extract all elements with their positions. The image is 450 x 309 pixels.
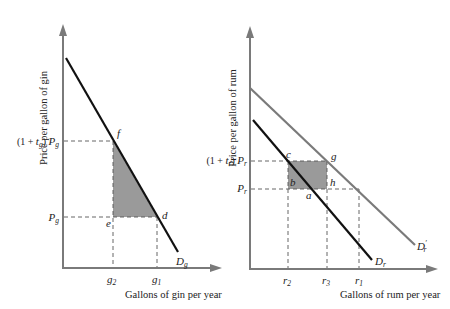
tick-r2: r2 bbox=[283, 274, 291, 288]
point-d-label: d bbox=[162, 209, 168, 221]
price-high-label: (1 + tr) Pr bbox=[207, 154, 248, 168]
tick-g2: g2 bbox=[107, 273, 117, 287]
y-axis-arrow-icon bbox=[246, 26, 254, 38]
x-axis-title: Gallons of rum per year bbox=[340, 289, 441, 300]
rum-chart: Price per gallon of rum (1 + tr) Pr Pr c… bbox=[207, 26, 441, 300]
x-axis-title: Gallons of gin per year bbox=[125, 289, 222, 300]
point-c-label: c bbox=[286, 148, 291, 160]
point-g-label: g bbox=[331, 150, 337, 162]
y-axis-title: Price per gallon of gin bbox=[38, 70, 49, 165]
demand-curve-dg bbox=[66, 58, 178, 252]
point-e-label: e bbox=[106, 217, 111, 229]
tick-r3: r3 bbox=[322, 274, 330, 288]
price-low-label: Pg bbox=[48, 211, 60, 225]
point-h-label: h bbox=[330, 176, 336, 188]
price-low-label: Pr bbox=[236, 182, 247, 196]
y-axis-arrow-icon bbox=[59, 24, 67, 36]
figure: Price per gallon of gin (1 + tg) Pg Pg f… bbox=[0, 0, 450, 309]
curve-dr-prime-label: D′r bbox=[416, 239, 427, 254]
price-high-label: (1 + tg) Pg bbox=[17, 135, 59, 149]
point-a-label: a bbox=[306, 189, 312, 201]
point-b-label: b bbox=[290, 176, 296, 188]
point-f-label: f bbox=[117, 127, 122, 139]
y-axis-title: Price per gallon of rum bbox=[227, 69, 238, 166]
curve-dg-label: Dg bbox=[175, 255, 188, 269]
demand-curve-dr bbox=[253, 120, 372, 260]
demand-curve-dr-prime bbox=[250, 88, 415, 245]
curve-dr-label: Dr bbox=[374, 255, 386, 269]
x-axis-arrow-icon bbox=[426, 265, 438, 273]
x-axis-arrow-icon bbox=[210, 264, 222, 272]
tick-g1: g1 bbox=[152, 273, 161, 287]
gin-chart: Price per gallon of gin (1 + tg) Pg Pg f… bbox=[17, 24, 222, 300]
tick-r1: r1 bbox=[355, 274, 363, 288]
